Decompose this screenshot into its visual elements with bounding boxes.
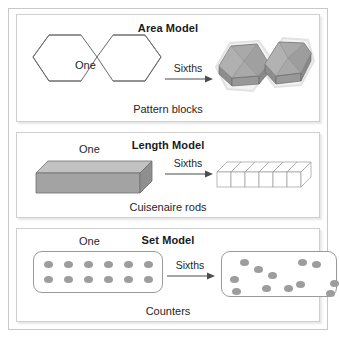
sixths-label-length: Sixths	[165, 157, 211, 169]
counter-dot	[44, 261, 53, 268]
counter-dot	[104, 261, 113, 268]
counter-dot	[268, 272, 277, 279]
counter-dot	[330, 280, 339, 287]
arrow-right-icon	[167, 272, 217, 284]
one-label-length: One	[79, 143, 100, 155]
counter-dot	[298, 259, 307, 266]
counter-dot	[262, 285, 271, 292]
counter-dot	[232, 288, 241, 295]
counter-box-partitioned	[221, 251, 337, 297]
panel-title-length: Length Model	[17, 139, 319, 151]
sixths-arrow-set: Sixths	[167, 259, 217, 285]
counter-dot	[64, 276, 73, 283]
counter-dot	[326, 290, 335, 297]
panel-length-model: Length Model One Sixths	[16, 132, 320, 218]
one-label-set: One	[79, 235, 100, 247]
arrow-right-icon	[165, 75, 215, 87]
counter-dot	[84, 261, 93, 268]
counter-dot	[144, 276, 153, 283]
panel-title-set: Set Model	[17, 234, 319, 246]
counter-dot	[44, 276, 53, 283]
sixths-label-area: Sixths	[165, 62, 211, 74]
counter-dot	[296, 281, 305, 288]
counter-dot	[124, 261, 133, 268]
sixths-label-set: Sixths	[167, 259, 213, 271]
counter-dot	[230, 276, 239, 283]
one-label-area: One	[75, 59, 96, 71]
pattern-blocks-3d	[213, 29, 317, 105]
counter-dot	[240, 259, 249, 266]
panel-area-model: Area Model One Sixths	[16, 14, 320, 122]
counter-dot	[144, 261, 153, 268]
panel-caption-length: Cuisenaire rods	[17, 201, 319, 213]
counter-dot	[104, 276, 113, 283]
counter-dot	[254, 266, 263, 273]
panel-caption-area: Pattern blocks	[17, 103, 319, 115]
arrow-right-icon	[165, 170, 215, 182]
sixths-arrow-length: Sixths	[165, 157, 215, 183]
counter-dot	[312, 261, 321, 268]
panel-caption-set: Counters	[17, 305, 319, 317]
counter-dot	[284, 285, 293, 292]
panel-set-model: Set Model One Sixths Counters	[16, 228, 320, 322]
sixths-arrow-area: Sixths	[165, 62, 215, 88]
counter-dot	[64, 261, 73, 268]
cuisenaire-rod-whole	[34, 159, 158, 201]
double-hexagon-outline	[31, 31, 163, 103]
counter-dot	[84, 276, 93, 283]
counter-box-whole	[33, 251, 163, 293]
counter-dot	[124, 276, 133, 283]
unit-cubes-rod	[215, 159, 317, 197]
